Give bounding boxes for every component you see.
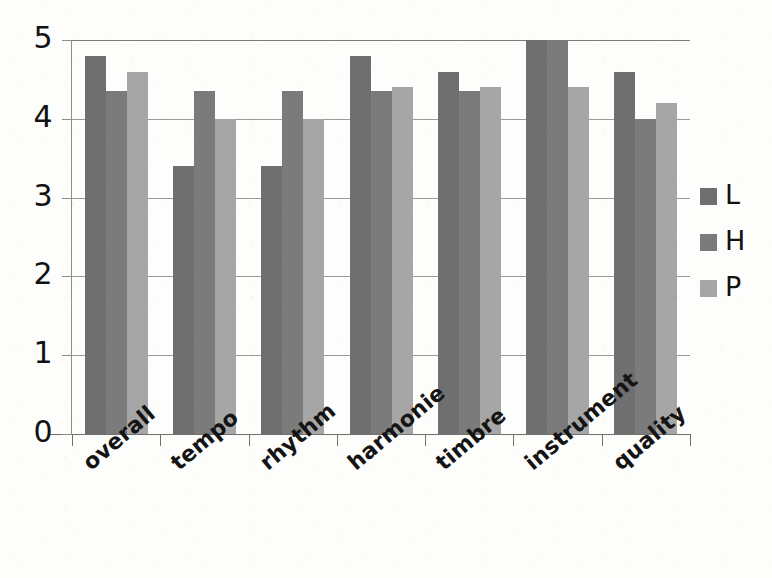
x-tick-5 [513, 434, 514, 446]
x-tick-0 [72, 434, 73, 446]
bar-rhythm-P [303, 119, 324, 434]
y-axis-label-5: 5 [30, 23, 56, 53]
y-tick-0 [62, 434, 72, 435]
legend-item-H[interactable]: H [700, 224, 770, 270]
y-axis-label-0: 0 [30, 417, 56, 447]
y-tick-4 [62, 119, 72, 120]
y-axis-label-4: 4 [30, 102, 56, 132]
x-tick-6 [602, 434, 603, 446]
x-tick-1 [160, 434, 161, 446]
bar-chart-figure: 543210 overalltemporhythmharmonietimbrei… [0, 0, 772, 578]
bar-overall-L [85, 56, 106, 434]
y-axis-label-2: 2 [30, 259, 56, 289]
bar-overall-H [106, 91, 127, 434]
y-axis-line [71, 40, 72, 435]
chart-legend: LHP [700, 178, 770, 316]
x-tick-4 [425, 434, 426, 446]
legend-item-P[interactable]: P [700, 270, 770, 316]
bar-rhythm-L [261, 166, 282, 434]
bar-instrument-H [547, 40, 568, 434]
bar-instrument-L [526, 40, 547, 434]
y-axis-label-1: 1 [30, 338, 56, 368]
x-tick-3 [337, 434, 338, 446]
y-axis-label-3: 3 [30, 181, 56, 211]
y-tick-2 [62, 276, 72, 277]
bar-quality-P [656, 103, 677, 434]
legend-label-H: H [725, 224, 745, 258]
bar-timbre-H [459, 91, 480, 434]
gridline-5 [72, 40, 690, 41]
y-tick-1 [62, 355, 72, 356]
bar-rhythm-H [282, 91, 303, 434]
bar-tempo-H [194, 91, 215, 434]
bar-timbre-P [480, 87, 501, 434]
bar-tempo-P [215, 119, 236, 434]
bar-instrument-P [568, 87, 589, 434]
bar-tempo-L [173, 166, 194, 434]
bar-harmonie-L [350, 56, 371, 434]
x-tick-7 [690, 434, 691, 446]
bar-timbre-L [438, 72, 459, 435]
legend-label-P: P [725, 270, 741, 304]
y-tick-5 [62, 40, 72, 41]
legend-swatch-P [700, 280, 717, 297]
legend-item-L[interactable]: L [700, 178, 770, 224]
legend-swatch-H [700, 234, 717, 251]
x-tick-2 [249, 434, 250, 446]
bar-harmonie-H [371, 91, 392, 434]
plot-area [72, 40, 690, 434]
bar-harmonie-P [392, 87, 413, 434]
legend-swatch-L [700, 188, 717, 205]
y-tick-3 [62, 198, 72, 199]
bar-overall-P [127, 72, 148, 435]
legend-label-L: L [725, 178, 740, 212]
